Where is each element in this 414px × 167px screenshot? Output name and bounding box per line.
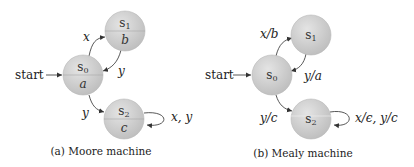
mealy-edge-label-self: x/ϵ, y/c: [355, 111, 398, 125]
mealy-caption: (b) Mealy machine: [253, 147, 352, 159]
moore-state-s2: s2 c: [104, 99, 144, 139]
moore-edge-s2-self: [144, 113, 164, 126]
moore-output-s0: a: [79, 77, 86, 91]
mealy-edge-label-ya: y/a: [303, 69, 322, 83]
mealy-edge-label-xb: x/b: [260, 27, 279, 41]
moore-state-s0: s0 a: [63, 55, 103, 95]
mealy-machine: start x/b y/a y/c x/ϵ, y/c s0 s1 s2 (b) …: [205, 15, 398, 159]
state-machine-figure: start x y y x, y s0 a s1 b s2 c: [0, 0, 414, 167]
moore-edge-label-y: y: [117, 64, 125, 78]
moore-output-s2: c: [121, 121, 128, 135]
mealy-state-s0: s0: [252, 55, 292, 95]
mealy-state-s2: s2: [291, 99, 331, 139]
moore-edge-s0-s2: [89, 95, 104, 112]
moore-caption: (a) Moore machine: [51, 145, 152, 157]
moore-edge-label-self: x, y: [171, 110, 192, 124]
mealy-state-s1: s1: [291, 15, 331, 55]
mealy-edge-s2-self: [330, 111, 349, 125]
moore-start-label: start: [15, 68, 44, 82]
moore-output-s1: b: [121, 33, 129, 47]
moore-edge-label-y2: y: [81, 106, 89, 120]
moore-edge-label-x: x: [83, 30, 90, 44]
moore-edge-s0-s1: [89, 37, 105, 56]
mealy-edge-s0-s2: [276, 95, 292, 111]
moore-state-s1: s1 b: [105, 11, 145, 51]
mealy-edge-label-yc: y/c: [259, 111, 278, 125]
moore-machine: start x y y x, y s0 a s1 b s2 c: [15, 11, 192, 157]
mealy-start-label: start: [205, 68, 234, 82]
